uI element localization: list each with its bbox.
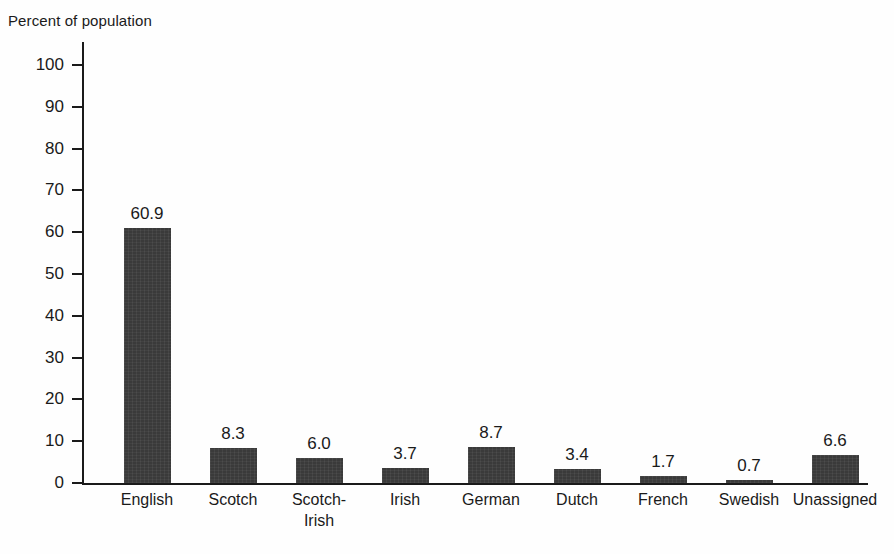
bar [382,468,429,483]
bar [296,458,343,483]
bar-value-label: 0.7 [709,456,789,476]
bar-value-label: 6.0 [279,434,359,454]
bar-value-label: 8.7 [451,423,531,443]
bar-value-label: 3.4 [537,445,617,465]
bar-value-label: 60.9 [107,204,187,224]
bar [726,480,773,483]
bar [554,469,601,483]
bar [640,476,687,483]
bar-value-label: 1.7 [623,452,703,472]
bar [468,447,515,483]
x-axis-category-label: Unassigned [780,489,890,510]
bar [812,455,859,483]
bars-layer: 60.9English8.3Scotch6.0Scotch- Irish3.7I… [0,0,894,554]
bar-value-label: 6.6 [795,431,875,451]
bar [210,448,257,483]
bar [124,228,171,483]
bar-value-label: 3.7 [365,444,445,464]
bar-chart: Percent of population 100908070605040302… [0,0,894,554]
bar-value-label: 8.3 [193,424,273,444]
